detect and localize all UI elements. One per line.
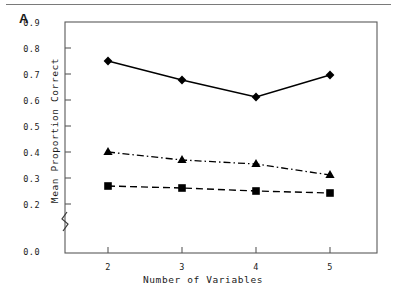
data-point-marker (177, 155, 186, 163)
y-tick-label: 0.8 (6, 44, 40, 54)
data-point-marker (178, 76, 187, 85)
x-axis-title: Number of Variables (66, 274, 340, 285)
series-1-line (108, 61, 330, 97)
y-tick-label: 0.7 (6, 70, 40, 80)
y-axis-break-icon (62, 212, 68, 231)
y-tick-label: 0.3 (6, 174, 40, 184)
x-tick-label: 4 (246, 262, 266, 272)
data-point-marker (252, 93, 261, 102)
x-tick-label: 2 (98, 262, 118, 272)
data-point-marker (252, 187, 260, 195)
y-tick-label: 0.4 (6, 148, 40, 158)
x-tick-label: 3 (172, 262, 192, 272)
series-2-line (108, 152, 330, 175)
y-axis-title: Mean Proportion Correct (49, 21, 60, 241)
series-1-markers (104, 57, 335, 102)
y-tick-label: 0.9 (6, 18, 40, 28)
series-3-line (108, 186, 330, 193)
y-axis-ticks (65, 48, 71, 204)
data-point-marker (104, 57, 113, 66)
document-divider (6, 4, 391, 5)
data-point-marker (326, 71, 335, 80)
x-tick-label: 5 (320, 262, 340, 272)
y-tick-label: 0.6 (6, 96, 40, 106)
data-point-marker (104, 182, 112, 190)
data-point-marker (326, 189, 334, 197)
data-point-marker (251, 159, 260, 167)
data-point-marker (103, 147, 112, 155)
figure-panel-a: A Mean Proportion Correct Number of Vari… (0, 0, 395, 297)
y-tick-label: 0.2 (6, 200, 40, 210)
x-axis-ticks (108, 247, 330, 253)
y-tick-label: 0.0 (6, 247, 40, 257)
y-tick-label: 0.5 (6, 122, 40, 132)
data-point-marker (178, 184, 186, 192)
plot-frame (65, 22, 377, 253)
